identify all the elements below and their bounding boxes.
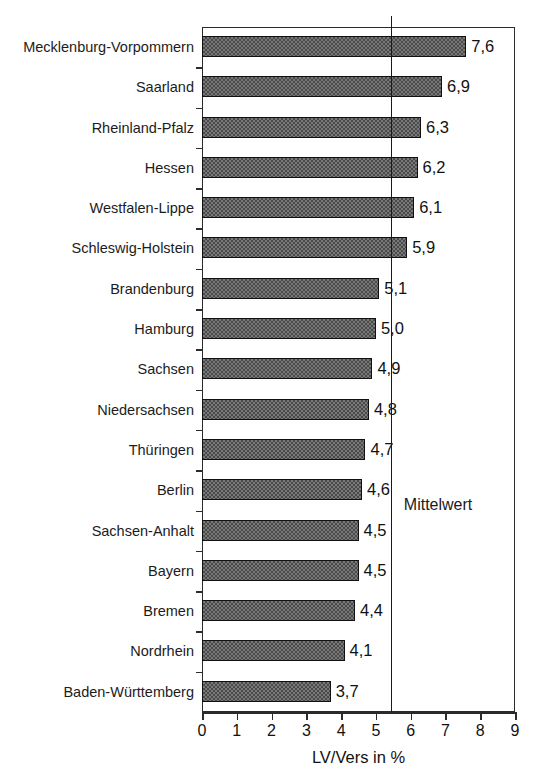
y-axis-tick	[196, 228, 203, 230]
bar	[202, 117, 421, 138]
bar-row: Westfalen-Lippe6,1	[0, 188, 540, 228]
x-axis-tick	[515, 712, 517, 720]
x-axis-tick	[445, 712, 447, 720]
bar-chart: Mecklenburg-Vorpommern7,6Saarland6,9Rhei…	[0, 0, 540, 771]
bar-row: Thüringen4,7	[0, 430, 540, 470]
y-axis-tick	[196, 591, 203, 593]
y-axis-tick	[196, 551, 203, 553]
bar-row: Hessen6,2	[0, 148, 540, 188]
category-label: Nordrhein	[0, 631, 194, 671]
x-axis-tick	[306, 712, 308, 720]
x-axis-tick-label: 8	[465, 722, 495, 740]
y-axis-tick	[196, 67, 203, 69]
bar	[202, 399, 369, 420]
x-axis-tick-label: 0	[187, 722, 217, 740]
bar-value-label: 4,8	[374, 399, 397, 420]
y-axis-tick	[196, 430, 203, 432]
x-axis-tick-label: 7	[430, 722, 460, 740]
bar-row: Hamburg5,0	[0, 309, 540, 349]
y-axis-tick	[196, 470, 203, 472]
x-axis-tick	[411, 712, 413, 720]
bar	[202, 318, 376, 339]
x-axis-tick	[376, 712, 378, 720]
category-label: Saarland	[0, 67, 194, 107]
y-axis-tick	[196, 309, 203, 311]
bar-value-label: 6,2	[423, 157, 446, 178]
bar-value-label: 6,3	[426, 117, 449, 138]
category-label: Brandenburg	[0, 269, 194, 309]
category-label: Berlin	[0, 470, 194, 510]
bar	[202, 560, 359, 581]
bar	[202, 36, 466, 57]
category-label: Mecklenburg-Vorpommern	[0, 27, 194, 67]
chart-title	[0, 0, 540, 8]
y-axis-tick	[196, 349, 203, 351]
x-axis-tick-label: 4	[326, 722, 356, 740]
x-axis-tick	[202, 712, 204, 720]
bar-row: Nordrhein4,1	[0, 631, 540, 671]
bar-row: Sachsen4,9	[0, 349, 540, 389]
bar-row: Brandenburg5,1	[0, 269, 540, 309]
x-axis-tick	[480, 712, 482, 720]
bar-value-label: 6,9	[447, 76, 470, 97]
bar-row: Rheinland-Pfalz6,3	[0, 108, 540, 148]
bar	[202, 197, 414, 218]
bar-row: Bayern4,5	[0, 551, 540, 591]
y-axis-tick	[196, 390, 203, 392]
bar-row: Bremen4,4	[0, 591, 540, 631]
category-label: Niedersachsen	[0, 390, 194, 430]
bar-value-label: 4,5	[364, 520, 387, 541]
category-label: Bayern	[0, 551, 194, 591]
y-axis-tick	[196, 511, 203, 513]
x-axis-tick-label: 6	[396, 722, 426, 740]
bar	[202, 157, 418, 178]
bar-value-label: 6,1	[419, 197, 442, 218]
x-axis-tick-label: 3	[291, 722, 321, 740]
x-axis-tick-label: 1	[222, 722, 252, 740]
bar-row: Saarland6,9	[0, 67, 540, 107]
bar-value-label: 4,6	[367, 479, 390, 500]
bar	[202, 479, 362, 500]
y-axis-tick	[196, 672, 203, 674]
bar-value-label: 4,4	[360, 600, 383, 621]
x-axis-tick-label: 5	[361, 722, 391, 740]
category-label: Rheinland-Pfalz	[0, 108, 194, 148]
bar	[202, 76, 442, 97]
bar-value-label: 5,1	[384, 278, 407, 299]
category-label: Westfalen-Lippe	[0, 188, 194, 228]
bar	[202, 278, 379, 299]
y-axis-tick	[196, 108, 203, 110]
x-axis-tick	[237, 712, 239, 720]
bar-row: Mecklenburg-Vorpommern7,6	[0, 27, 540, 67]
bar-value-label: 4,5	[364, 560, 387, 581]
y-axis-tick	[196, 188, 203, 190]
bar	[202, 237, 407, 258]
y-axis-tick	[196, 631, 203, 633]
category-label: Sachsen	[0, 349, 194, 389]
bar	[202, 439, 365, 460]
bar-row: Sachsen-Anhalt4,5	[0, 511, 540, 551]
x-axis-tick	[272, 712, 274, 720]
bar	[202, 520, 359, 541]
bar-value-label: 4,9	[377, 358, 400, 379]
bar-value-label: 3,7	[336, 681, 359, 702]
category-label: Hamburg	[0, 309, 194, 349]
x-axis-line	[202, 712, 515, 714]
bar-row: Baden-Württemberg3,7	[0, 672, 540, 712]
bar	[202, 600, 355, 621]
y-axis-tick	[196, 148, 203, 150]
y-axis-tick	[196, 269, 203, 271]
category-label: Hessen	[0, 148, 194, 188]
x-axis-tick-label: 2	[257, 722, 287, 740]
bar	[202, 681, 331, 702]
bar	[202, 640, 345, 661]
bar-value-label: 7,6	[471, 36, 494, 57]
bar	[202, 358, 372, 379]
mittelwert-label: Mittelwert	[404, 496, 472, 514]
category-label: Baden-Württemberg	[0, 672, 194, 712]
bar-value-label: 5,9	[412, 237, 435, 258]
x-axis-tick	[341, 712, 343, 720]
category-label: Thüringen	[0, 430, 194, 470]
mittelwert-line	[391, 16, 393, 714]
bar-value-label: 4,1	[350, 640, 373, 661]
